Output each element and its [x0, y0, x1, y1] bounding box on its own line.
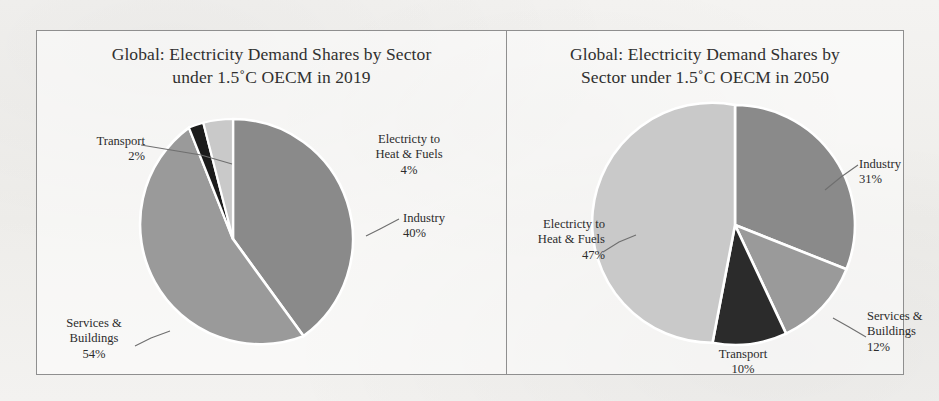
pie-2019-label-transport: Transport 2% [83, 134, 145, 165]
pie-2050-label-services-buildings: Services & Buildings 12% [867, 309, 939, 355]
pie-2019-area: Transport 2% Electricty to Heat & Fuels … [37, 31, 506, 374]
pie-2050-label-industry-name: Industry [859, 157, 901, 171]
pie-2050-label-services-name-1: Services & [867, 309, 923, 323]
pie-2050-label-industry-value: 31% [859, 172, 925, 187]
pie-2050-area: Industry 31% Electricty to Heat & Fuels … [507, 31, 903, 374]
pie-2050-label-heat-value: 47% [513, 248, 605, 263]
pie-2050-slices [592, 103, 855, 345]
pie-2019-label-heat-name-2: Heat & Fuels [359, 147, 459, 162]
pie-2019-leader-industry [366, 217, 400, 239]
pie-2019-label-transport-value: 2% [83, 149, 145, 164]
pie-2050-label-heat-name-2: Heat & Fuels [513, 232, 605, 247]
pie-2019-label-services-name-1: Services & [66, 316, 122, 330]
pie-2050-label-industry: Industry 31% [859, 157, 925, 188]
pie-2050-label-electricity-heat-fuels: Electricty to Heat & Fuels 47% [513, 217, 605, 263]
pie-2019-slices [140, 119, 353, 344]
pie-2050-label-transport-name: Transport [719, 347, 768, 361]
pie-2050-slice-electricity-heat-fuels[interactable] [592, 103, 735, 343]
figure-sheet: Global: Electricity Demand Shares by Sec… [0, 0, 939, 401]
pie-2050-label-heat-name-1: Electricty to [543, 217, 605, 231]
pie-2019-label-services-value: 54% [51, 347, 137, 362]
pie-2050-svg [613, 103, 857, 347]
pie-2019-label-electricity-heat-fuels: Electricty to Heat & Fuels 4% [359, 132, 459, 178]
pie-2050-label-services-value: 12% [867, 340, 939, 355]
pie-2019-label-industry: Industry 40% [403, 211, 473, 242]
pie-2019-svg [111, 117, 355, 361]
chart-panels: Global: Electricity Demand Shares by Sec… [36, 30, 904, 375]
chart-panel-2050: Global: Electricity Demand Shares by Sec… [506, 30, 904, 375]
pie-2019-label-services-buildings: Services & Buildings 54% [51, 316, 137, 362]
pie-2019-label-transport-name: Transport [96, 134, 145, 148]
pie-2050-label-transport: Transport 10% [703, 347, 783, 378]
pie-2050-label-services-name-2: Buildings [867, 324, 939, 339]
pie-2019-label-services-name-2: Buildings [51, 331, 137, 346]
pie-2019-label-heat-name-1: Electricty to [378, 132, 440, 146]
pie-2019-label-heat-value: 4% [359, 163, 459, 178]
chart-panel-2019: Global: Electricity Demand Shares by Sec… [36, 30, 506, 375]
pie-2050-label-transport-value: 10% [703, 362, 783, 377]
pie-2019-label-industry-value: 40% [403, 226, 473, 241]
pie-2019-label-industry-name: Industry [403, 211, 445, 225]
